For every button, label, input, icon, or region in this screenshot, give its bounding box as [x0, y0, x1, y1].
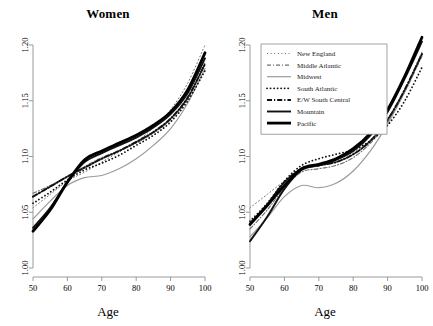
legend-label: Midwest	[297, 73, 322, 81]
figure-root: Women 1.001.051.101.151.205060708090100 …	[0, 0, 433, 326]
svg-text:1.00: 1.00	[237, 261, 247, 276]
legend: New EnglandMiddle AtlanticMidwestSouth A…	[261, 44, 387, 134]
legend-label: Middle Atlantic	[297, 62, 341, 70]
svg-text:1.20: 1.20	[20, 38, 30, 53]
svg-text:60: 60	[280, 283, 289, 293]
plot-area-women: 1.001.051.101.151.205060708090100	[0, 0, 216, 326]
svg-text:80: 80	[132, 283, 141, 293]
svg-text:1.10: 1.10	[237, 149, 247, 164]
svg-text:1.05: 1.05	[20, 205, 30, 220]
series-line	[33, 53, 205, 231]
legend-label: Mountain	[297, 108, 325, 116]
svg-text:1.00: 1.00	[20, 261, 30, 276]
panel-men: Men 1.001.051.101.151.205060708090100New…	[217, 0, 433, 326]
svg-text:1.15: 1.15	[20, 93, 30, 108]
plot-area-men: 1.001.051.101.151.205060708090100New Eng…	[217, 0, 433, 326]
svg-text:1.20: 1.20	[237, 38, 247, 53]
svg-text:90: 90	[166, 283, 175, 293]
svg-text:1.15: 1.15	[237, 93, 247, 108]
legend-label: E/W South Central	[297, 96, 350, 104]
series-line	[33, 71, 205, 204]
svg-text:90: 90	[383, 283, 392, 293]
svg-text:100: 100	[416, 283, 429, 293]
panel-women: Women 1.001.051.101.151.205060708090100 …	[0, 0, 216, 326]
svg-text:1.05: 1.05	[237, 205, 247, 220]
svg-text:50: 50	[29, 283, 38, 293]
svg-text:100: 100	[199, 283, 212, 293]
svg-text:80: 80	[349, 283, 358, 293]
series-line	[33, 45, 205, 208]
svg-text:70: 70	[315, 283, 324, 293]
legend-label: Pacific	[297, 120, 316, 128]
svg-text:50: 50	[246, 283, 255, 293]
legend-label: South Atlantic	[297, 85, 337, 93]
x-axis-label-men: Age	[217, 304, 433, 320]
series-line	[33, 63, 205, 193]
svg-text:1.10: 1.10	[20, 149, 30, 164]
x-axis-label-women: Age	[0, 304, 216, 320]
svg-text:60: 60	[63, 283, 72, 293]
legend-label: New England	[297, 50, 336, 58]
svg-text:70: 70	[98, 283, 107, 293]
series-line	[33, 64, 205, 197]
